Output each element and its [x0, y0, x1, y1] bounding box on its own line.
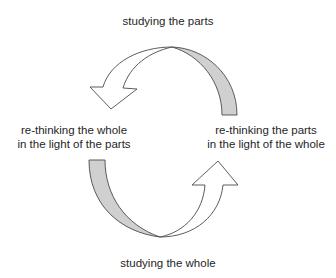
label-studying-parts: studying the parts [0, 14, 336, 28]
top-arrow-band [172, 47, 237, 115]
bottom-arrow-head [160, 161, 238, 237]
label-rethinking-parts-line2: in the light of the whole [196, 137, 336, 151]
label-rethinking-whole-line2: in the light of the parts [8, 137, 140, 151]
label-rethinking-whole: re-thinking the whole in the light of th… [8, 123, 140, 151]
bottom-arrow-band [89, 160, 160, 237]
label-rethinking-whole-line1: re-thinking the whole [8, 123, 140, 137]
label-rethinking-parts: re-thinking the parts in the light of th… [196, 123, 336, 151]
top-arrow-head [90, 47, 172, 109]
label-rethinking-parts-line1: re-thinking the parts [196, 123, 336, 137]
label-studying-whole: studying the whole [0, 256, 336, 270]
